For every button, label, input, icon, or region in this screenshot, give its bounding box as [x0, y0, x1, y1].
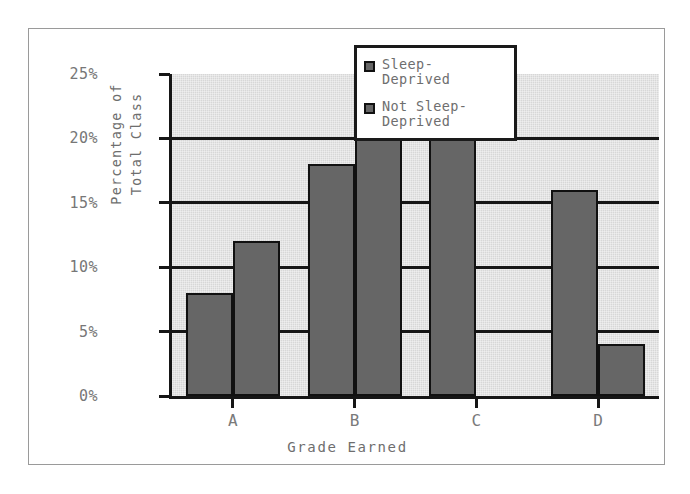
y-axis-title: Percentage of Total Class	[103, 19, 149, 269]
y-axis-title-line-2: Total Class	[128, 93, 144, 196]
bar	[551, 190, 598, 396]
y-axis-tick	[159, 330, 170, 333]
x-axis-tick-label: D	[593, 411, 603, 430]
y-axis-tick-label: 15%	[69, 194, 98, 212]
y-axis-tick-label: 0%	[79, 387, 98, 405]
bar	[308, 164, 355, 396]
legend-swatch-icon	[364, 61, 375, 72]
y-axis-tick	[159, 395, 170, 398]
x-axis-tick	[353, 399, 356, 408]
y-axis-tick	[159, 201, 170, 204]
y-axis-tick	[159, 137, 170, 140]
y-axis-tick	[159, 73, 170, 76]
legend-label: Not Sleep- Deprived	[382, 99, 467, 129]
legend-item: Sleep- Deprived	[364, 57, 506, 87]
y-axis-tick-label: 5%	[79, 323, 98, 341]
y-axis-tick	[159, 266, 170, 269]
y-axis-title-line-1: Percentage of	[108, 83, 124, 204]
x-axis-tick-label: A	[228, 411, 238, 430]
x-axis-tick	[475, 399, 478, 408]
x-axis-tick-label: C	[472, 411, 482, 430]
bar	[355, 113, 402, 396]
y-axis-tick-label: 20%	[69, 129, 98, 147]
legend-item: Not Sleep- Deprived	[364, 99, 506, 129]
y-axis-tick-label: 25%	[69, 65, 98, 83]
x-axis-spine	[169, 396, 659, 399]
legend-swatch-icon	[364, 103, 375, 114]
x-axis-tick	[231, 399, 234, 408]
bar	[186, 293, 233, 396]
chart-figure: Percentage of Total Class 0%5%10%15%20%2…	[28, 28, 665, 465]
legend-label: Sleep- Deprived	[382, 57, 450, 87]
bar	[233, 241, 280, 396]
chart-legend: Sleep- DeprivedNot Sleep- Deprived	[354, 45, 517, 141]
y-axis-tick-label: 10%	[69, 258, 98, 276]
bar	[598, 344, 645, 396]
x-axis-title: Grade Earned	[29, 439, 666, 455]
x-axis-tick-label: B	[350, 411, 360, 430]
x-axis-tick	[597, 399, 600, 408]
bar	[429, 138, 476, 396]
